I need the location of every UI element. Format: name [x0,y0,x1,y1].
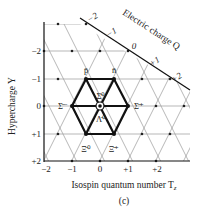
x-axis-title: Isospin quantum number Tz [71,180,176,192]
charge-axis-title: Electric charge Q [121,7,182,52]
antibaryon-octet-diagram: −2 −1 0 +1 +2 −2 −1 0 +1 +2 −2 −1 0 +1 +… [0,0,201,214]
svg-text:Isospin quantum number Tz: Isospin quantum number Tz [71,180,176,192]
particle-label-anti-xi-zero: Ξ̄⁰ [81,144,90,154]
particle-label-anti-xi-plus: Ξ̄⁺ [109,144,119,154]
svg-text:+1: +1 [31,129,41,139]
svg-text:−1: −1 [67,164,77,174]
grid-nodes [43,23,186,163]
svg-text:+1: +1 [123,164,133,174]
svg-text:0: 0 [98,164,103,174]
particle-label-anti-sigma-plus: Σ̄⁺ [134,101,144,111]
svg-text:+2: +2 [31,156,41,166]
svg-text:−1: −1 [104,25,118,39]
particle-label-anti-lambda: Λ̄⁰ [96,114,106,124]
x-tick-labels: −2 −1 0 +1 +2 [41,164,162,174]
figure-caption: (c) [119,196,130,207]
svg-text:+2: +2 [152,164,162,174]
particle-label-anti-sigma-zero: Σ̄⁰ [97,91,106,101]
svg-text:−2: −2 [41,164,51,174]
svg-text:+2: +2 [169,70,184,84]
particle-label-anti-proton: p̄ [84,65,88,75]
svg-text:−2: −2 [31,46,41,56]
particle-label-anti-sigma-minus: Σ̄⁻ [58,101,68,111]
svg-text:−1: −1 [31,74,41,84]
svg-text:0: 0 [37,101,42,111]
y-axis-title: Hypercharge Y [7,77,17,135]
svg-text:0: 0 [132,41,137,51]
center-double-node [96,102,104,110]
svg-text:+1: +1 [147,54,161,68]
particle-label-anti-neutron: n̄ [112,65,117,75]
y-tick-labels: −2 −1 0 +1 +2 [31,46,41,166]
